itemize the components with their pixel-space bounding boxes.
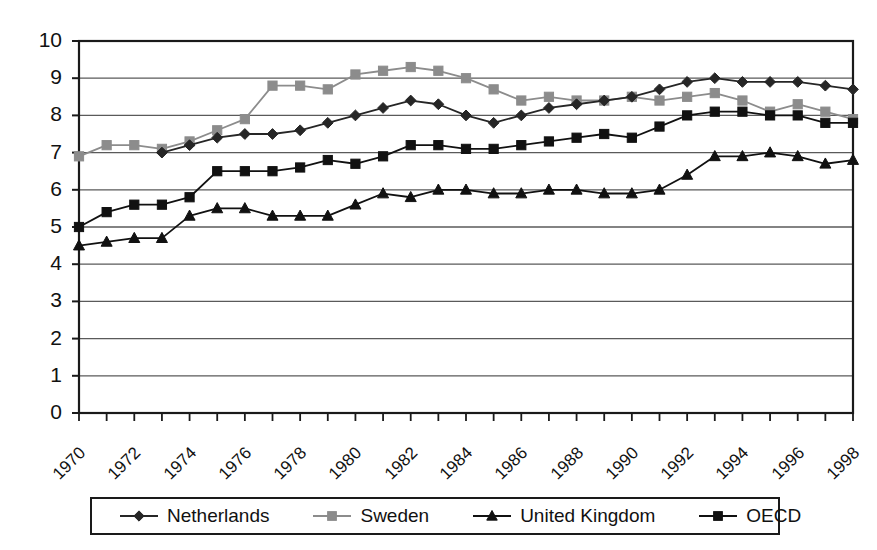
legend-item-united-kingdom[interactable]: United Kingdom — [473, 505, 655, 527]
diamond-marker — [405, 95, 416, 106]
grid-lines — [79, 41, 853, 413]
diamond-marker — [267, 129, 278, 140]
square-marker — [600, 129, 609, 138]
legend-label: Sweden — [360, 505, 429, 527]
x-axis-ticks — [79, 413, 853, 421]
square-marker — [406, 62, 415, 71]
square-marker — [268, 167, 277, 176]
square-marker — [74, 152, 83, 161]
square-marker — [461, 74, 470, 83]
square-marker — [627, 133, 636, 142]
triangle-marker — [654, 184, 665, 194]
diamond-marker — [350, 110, 361, 121]
square-marker — [489, 144, 498, 153]
square-marker — [489, 85, 498, 94]
y-tick-label: 1 — [28, 364, 62, 385]
diamond-marker — [322, 117, 333, 128]
square-marker — [738, 107, 747, 116]
square-marker — [74, 222, 83, 231]
square-marker — [821, 107, 830, 116]
diamond-marker — [709, 73, 720, 84]
square-marker — [102, 208, 111, 217]
square-marker — [517, 96, 526, 105]
square-marker — [544, 137, 553, 146]
legend-item-sweden[interactable]: Sweden — [313, 505, 429, 527]
square-marker — [313, 507, 351, 525]
legend-item-oecd[interactable]: OECD — [699, 505, 801, 527]
square-marker — [378, 66, 387, 75]
triangle-marker-glyph — [480, 506, 504, 526]
square-marker — [517, 141, 526, 150]
diamond-marker — [461, 110, 472, 121]
square-marker — [699, 507, 737, 525]
triangle-marker — [473, 507, 511, 525]
square-marker — [683, 92, 692, 101]
square-marker — [544, 92, 553, 101]
legend-label: OECD — [746, 505, 801, 527]
y-tick-label: 10 — [28, 29, 62, 50]
diamond-marker — [820, 80, 831, 91]
chart-legend: NetherlandsSwedenUnited KingdomOECD — [90, 497, 780, 535]
y-tick-label: 9 — [28, 66, 62, 87]
y-tick-label: 3 — [28, 289, 62, 310]
square-marker — [102, 141, 111, 150]
square-marker — [351, 70, 360, 79]
square-marker — [323, 155, 332, 164]
square-marker — [793, 111, 802, 120]
square-marker — [130, 141, 139, 150]
square-marker — [296, 163, 305, 172]
y-tick-label: 0 — [28, 401, 62, 422]
legend-item-netherlands[interactable]: Netherlands — [120, 505, 269, 527]
legend-label: United Kingdom — [520, 505, 655, 527]
y-tick-label: 4 — [28, 252, 62, 273]
square-marker — [185, 193, 194, 202]
square-marker — [793, 100, 802, 109]
diamond-marker — [433, 99, 444, 110]
diamond-marker — [295, 125, 306, 136]
series-line — [79, 153, 853, 246]
square-marker — [213, 167, 222, 176]
y-tick-label: 7 — [28, 141, 62, 162]
triangle-marker — [847, 154, 858, 164]
y-tick-label: 5 — [28, 215, 62, 236]
diamond-marker — [378, 103, 389, 114]
diamond-marker-glyph — [127, 506, 151, 526]
diamond-marker — [488, 117, 499, 128]
square-marker — [328, 512, 337, 521]
y-tick-label: 6 — [28, 178, 62, 199]
square-marker — [268, 81, 277, 90]
square-marker — [296, 81, 305, 90]
y-tick-label: 8 — [28, 103, 62, 124]
line-chart: 012345678910 197019721974197619781980198… — [0, 0, 877, 550]
square-marker — [323, 85, 332, 94]
diamond-marker — [120, 507, 158, 525]
square-marker — [655, 122, 664, 131]
square-marker — [765, 111, 774, 120]
square-marker — [434, 141, 443, 150]
square-marker — [351, 159, 360, 168]
square-marker — [240, 167, 249, 176]
square-marker — [738, 96, 747, 105]
diamond-marker — [239, 129, 250, 140]
series-line — [79, 112, 853, 227]
square-marker — [378, 152, 387, 161]
square-marker-glyph — [320, 506, 344, 526]
triangle-marker — [682, 169, 693, 179]
diamond-marker — [516, 110, 527, 121]
square-marker — [406, 141, 415, 150]
square-marker — [710, 107, 719, 116]
square-marker — [240, 115, 249, 124]
square-marker — [683, 111, 692, 120]
square-marker-glyph — [706, 506, 730, 526]
square-marker — [710, 88, 719, 97]
square-marker — [157, 200, 166, 209]
y-tick-label: 2 — [28, 327, 62, 348]
square-marker — [821, 118, 830, 127]
legend-label: Netherlands — [167, 505, 269, 527]
series-oecd — [74, 107, 857, 232]
square-marker — [434, 66, 443, 75]
triangle-marker — [487, 510, 497, 520]
square-marker — [461, 144, 470, 153]
diamond-marker — [848, 84, 859, 95]
diamond-marker — [544, 103, 555, 114]
